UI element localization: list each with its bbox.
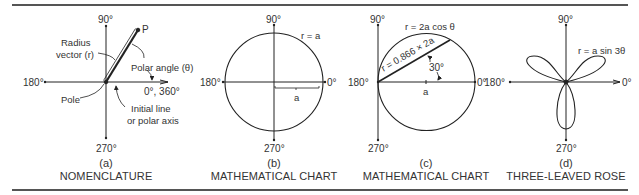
panel-c-label-270: 270° bbox=[368, 143, 389, 154]
panel-b-caption: MATHEMATICAL CHART bbox=[211, 170, 338, 182]
polar-angle-leader bbox=[132, 44, 144, 58]
radius-vector bbox=[106, 30, 138, 82]
panel-d-label-270: 270° bbox=[556, 143, 577, 154]
panel-c-equation: r = 2a cos θ bbox=[405, 21, 455, 32]
radius-bracket bbox=[275, 86, 319, 88]
initial-line-label-2: or polar axis bbox=[127, 115, 179, 126]
pole-label: Pole bbox=[61, 94, 80, 105]
angle-arc bbox=[437, 72, 439, 80]
panel-b-equation: r = a bbox=[301, 30, 320, 41]
rose-petal-right bbox=[566, 56, 605, 82]
polar-angle-label: Polar angle (θ) bbox=[131, 62, 193, 73]
radius-label-line1: Radius bbox=[61, 37, 91, 48]
panel-c-label-90: 90° bbox=[370, 14, 385, 25]
panel-d-label-180: 180° bbox=[484, 77, 505, 88]
panel-a-letter: (a) bbox=[99, 157, 113, 169]
panel-c-caption: MATHEMATICAL CHART bbox=[363, 170, 490, 182]
initial-line-leader bbox=[116, 86, 125, 107]
panel-b-label-180: 180° bbox=[200, 77, 221, 88]
initial-line-label-1: Initial line bbox=[131, 103, 171, 114]
point-p bbox=[136, 28, 140, 32]
panel-a-label-270: 270° bbox=[96, 143, 117, 154]
panel-b-letter: (b) bbox=[267, 157, 281, 169]
point-p-label: P bbox=[142, 24, 149, 35]
panel-c-letter: (c) bbox=[419, 157, 432, 169]
radius-label-line2: vector (r) bbox=[56, 49, 94, 60]
panel-c-center-label: a bbox=[423, 86, 428, 97]
panel-a-caption: NOMENCLATURE bbox=[60, 170, 153, 182]
panel-c-angle-label: 30° bbox=[429, 62, 444, 73]
rose-petal-left bbox=[527, 56, 566, 82]
pole-leader bbox=[80, 84, 104, 98]
panel-a-label-180: 180° bbox=[23, 77, 44, 88]
panel-d-label-90: 90° bbox=[558, 14, 573, 25]
panel-b-radius-label: a bbox=[294, 92, 299, 103]
panel-a-label-0-360: 0°, 360° bbox=[144, 86, 180, 97]
panel-d-label-0: 0° bbox=[622, 77, 632, 88]
pole-dot bbox=[104, 80, 108, 84]
panel-d-graphic bbox=[510, 25, 620, 140]
panel-b-graphic bbox=[223, 25, 325, 140]
panel-a-label-90: 90° bbox=[98, 14, 113, 25]
panel-d-letter: (d) bbox=[559, 157, 573, 169]
panel-b-label-0: 0° bbox=[327, 77, 337, 88]
panel-c-label-180: 180° bbox=[348, 77, 369, 88]
panel-d-equation: r = a sin 3θ bbox=[578, 45, 625, 56]
panel-b-label-270: 270° bbox=[264, 143, 285, 154]
panel-b-label-90: 90° bbox=[266, 14, 281, 25]
panel-d-caption: THREE-LEAVED ROSE bbox=[506, 170, 625, 182]
